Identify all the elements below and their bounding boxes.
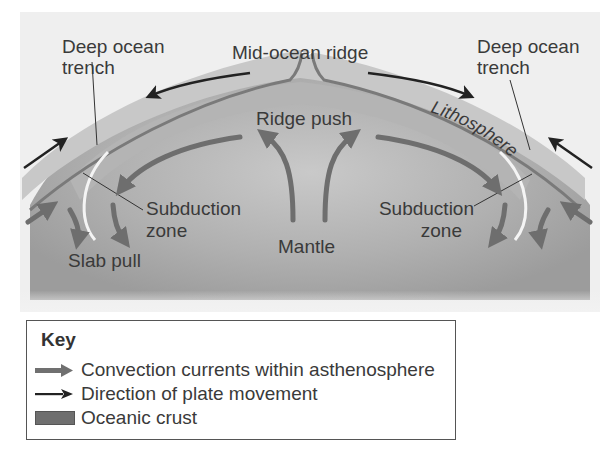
convection-arrow-icon <box>35 363 75 377</box>
key-item-plate-movement: Direction of plate movement <box>35 382 318 406</box>
subduction-zone-left-label: Subduction zone <box>146 198 241 242</box>
deep-ocean-trench-right-label: Deep ocean trench <box>477 36 579 78</box>
mantle-label: Mantle <box>278 236 335 257</box>
key-item-convection: Convection currents within asthenosphere <box>35 358 435 382</box>
oceanic-crust-swatch-icon <box>35 411 75 425</box>
key-title: Key <box>41 329 76 351</box>
mid-ocean-ridge-label: Mid-ocean ridge <box>232 42 368 63</box>
subduction-zone-right-label: Subduction zone <box>362 198 474 242</box>
plate-movement-arrow-icon <box>35 387 75 401</box>
ridge-push-label: Ridge push <box>256 108 352 129</box>
key-legend: Key Convection currents within asthenosp… <box>26 320 456 440</box>
key-item-oceanic-crust: Oceanic crust <box>35 406 197 430</box>
slab-pull-label: Slab pull <box>68 250 141 271</box>
deep-ocean-trench-left-label: Deep ocean trench <box>62 36 164 78</box>
